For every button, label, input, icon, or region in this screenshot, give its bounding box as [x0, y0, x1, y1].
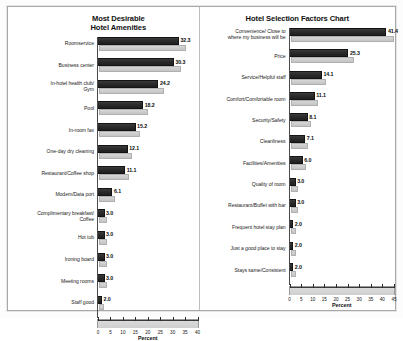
bar-category-label: Ironing board: [10, 253, 97, 268]
chart-title-amenities: Most Desirable Hotel Amenities: [8, 15, 199, 33]
axis-baseline: [97, 37, 98, 318]
bar-row: Frequent hotel stay plan2.0: [202, 220, 395, 241]
axis-tick-label: 30: [357, 297, 362, 302]
bar-category-label: In-hotel health club/Gym: [10, 80, 97, 95]
axis-tick: [110, 317, 111, 321]
bar-track: 24.2: [97, 80, 199, 95]
bar-track: 3.0: [97, 274, 199, 289]
bar-shadow: [291, 186, 299, 192]
x-axis-label-selection-factors: Percent: [289, 302, 395, 308]
axis-tick: [371, 284, 372, 288]
bar-fill: [289, 71, 322, 79]
bar-shadow: [291, 36, 395, 42]
bar-fill: [289, 49, 349, 57]
bar-value-label: 2.0: [295, 221, 302, 227]
bar-fill: [97, 209, 105, 217]
axis-tick-label: 0: [288, 297, 291, 302]
bar-row: Business center30.3: [10, 58, 199, 80]
bar-category-label: Stays same/Consistent: [202, 263, 289, 278]
bar-row: Security/Safety8.1: [202, 113, 395, 134]
bar-track: 25.3: [289, 49, 395, 64]
plot-area-selection-factors: Convenience/ Close towhere my business w…: [200, 28, 395, 309]
bar-fill: [97, 188, 112, 196]
bar-row: Stays same/Consistent2.0: [202, 263, 395, 284]
bar-fill: [289, 92, 315, 100]
axis-tick: [173, 317, 174, 321]
bar-shadow: [291, 164, 306, 170]
bar-rows-amenities: Roomservice32.3Business center30.3In-hot…: [8, 37, 199, 318]
bar-value-label: 2.0: [295, 242, 302, 248]
bar-shadow: [291, 271, 296, 277]
bar-stack: 14.1: [289, 71, 395, 86]
x-axis-selection-factors: 051015202530354045: [200, 286, 395, 295]
bar-track: 2.0: [289, 220, 395, 235]
bar-category-label: Staff good: [10, 296, 97, 311]
bar-shadow: [99, 109, 148, 115]
bar-shadow: [291, 250, 296, 256]
bar-stack: 24.2: [97, 80, 199, 95]
axis-tick-label: 5: [109, 330, 112, 335]
axis-tick: [290, 284, 291, 288]
bar-value-label: 18.2: [145, 102, 155, 108]
bar-category-label: Meeting rooms: [10, 274, 97, 289]
bar-row: Staff good2.0: [10, 296, 199, 318]
axis-tick-label: 25: [158, 330, 163, 335]
bar-track: 3.0: [97, 231, 199, 246]
bar-track: 15.2: [97, 123, 199, 138]
bar-shadow: [291, 79, 326, 85]
bar-fill: [97, 101, 143, 109]
bar-shadow: [99, 174, 129, 180]
bar-stack: 3.0: [289, 199, 395, 214]
axis-tick-label: 15: [133, 330, 138, 335]
bar-shadow: [99, 66, 181, 72]
bar-stack: 6.1: [97, 188, 199, 203]
axis-baseline: [289, 28, 290, 285]
bar-fill: [97, 123, 136, 131]
bar-value-label: 14.1: [323, 71, 333, 77]
axis-bar: 0510152025303540: [97, 319, 199, 328]
bar-fill: [97, 253, 105, 261]
bar-shadow: [291, 228, 296, 234]
bar-track: 6.0: [289, 156, 395, 171]
bar-category-label: Frequent hotel stay plan: [202, 220, 289, 235]
chart-title-line2: Hotel Amenities: [42, 24, 195, 33]
axis-tick: [301, 284, 302, 288]
bar-category-label: Price: [202, 49, 289, 64]
bar-stack: 15.2: [97, 123, 199, 138]
axis-tick: [359, 284, 360, 288]
axis-tick: [348, 284, 349, 288]
x-axis-label-amenities: Percent: [97, 335, 199, 341]
bar-track: 3.0: [97, 209, 199, 224]
x-axis-caption-wrap-amenities: Percent: [8, 335, 199, 341]
bar-shadow: [99, 153, 132, 159]
bar-row: Comfort/Comfortable room11.1: [202, 92, 395, 113]
bar-track: 30.3: [97, 58, 199, 73]
bar-category-label: Complimentary breakfast/Coffee: [10, 209, 97, 224]
bar-row: Pool18.2: [10, 101, 199, 123]
bar-row: Price25.3: [202, 49, 395, 70]
bar-row: Restaurant/Coffee shop11.1: [10, 166, 199, 188]
bar-category-label: Restaurant/Buffet with bar: [202, 199, 289, 214]
bar-fill: [289, 178, 296, 186]
axis-tick: [148, 317, 149, 321]
axis-tick-label: 20: [333, 297, 338, 302]
bar-value-label: 12.1: [129, 145, 139, 151]
bar-shadow: [291, 121, 311, 127]
bar-stack: 32.3: [97, 37, 199, 52]
axis-tick-label: 40: [380, 297, 385, 302]
bar-stack: 7.1: [289, 135, 395, 150]
bar-value-label: 3.0: [106, 210, 113, 216]
axis-tick-label: 30: [170, 330, 175, 335]
bar-category-label: Restaurant/Coffee shop: [10, 166, 97, 181]
bar-row: Ironing board3.0: [10, 253, 199, 275]
bar-row: In-hotel health club/Gym24.2: [10, 80, 199, 102]
bar-shadow: [291, 100, 319, 106]
bar-category-label: Business center: [10, 58, 97, 73]
bar-fill: [97, 145, 128, 153]
bar-stack: 2.0: [289, 242, 395, 257]
bar-value-label: 11.1: [316, 92, 326, 98]
bar-row: Quality of room3.0: [202, 178, 395, 199]
bar-value-label: 25.3: [350, 50, 360, 56]
bar-value-label: 15.2: [137, 123, 147, 129]
bar-track: 2.0: [97, 296, 199, 311]
